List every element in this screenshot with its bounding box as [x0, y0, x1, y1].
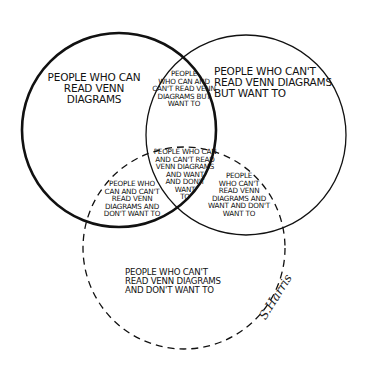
region-label-can-read: People who can read Venn diagrams [38, 72, 150, 105]
region-label-cant-read-dont-want: People who can't read Venn diagrams and … [125, 268, 247, 295]
region-label-cant-want-and-dont: People who can't read Venn diagrams and … [198, 172, 280, 217]
region-label-cant-read-want: People who can't read Venn diagrams but … [214, 66, 336, 99]
region-label-can-and-cant-dont-want: People who can and can't read Venn diagr… [96, 180, 168, 218]
region-label-can-and-cant-want: People who can and can't read Venn diagr… [148, 70, 220, 108]
